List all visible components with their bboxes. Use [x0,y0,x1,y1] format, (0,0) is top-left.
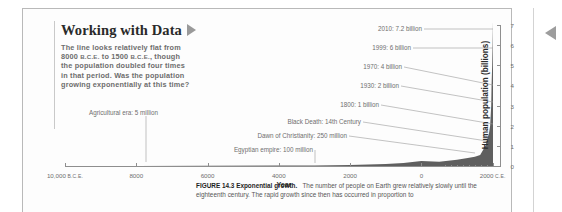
y-tick [497,126,501,127]
y-tick-label: 5 [511,62,514,69]
x-tick-label: 8000 [129,172,143,179]
x-tick-label: 0 [420,172,423,179]
figure-caption-label: FIGURE 14.3 Exponential growth. [196,182,297,189]
x-tick [208,163,209,167]
y-tick-label: 3 [511,102,514,109]
figure-root: Working with Data The line looks relativ… [0,0,562,212]
chart-annotation: Dawn of Christianity: 250 million [257,132,347,139]
x-tick-minor [487,165,488,168]
x-tick [65,163,66,167]
chart-annotation: 1999: 6 billion [372,44,411,51]
x-tick-minor [469,165,470,168]
x-tick-label: 2000 C.E. [480,172,506,179]
y-tick [497,25,501,26]
x-tick-label: 4000 [272,172,286,179]
x-tick [279,163,280,167]
x-tick-minor [445,165,446,168]
figure-caption: FIGURE 14.3 Exponential growth. The numb… [196,181,506,200]
x-tick-minor [463,165,464,168]
y-tick [497,65,501,66]
y-tick [497,106,501,107]
y-tick-label: 1 [511,142,514,149]
x-tick [350,163,351,167]
population-chart: Year Human population (billions) 10,000 … [63,23,505,167]
y-tick-label: 7 [511,22,514,29]
y-tick-label: 0 [511,163,514,170]
chart-annotation: 1970: 4 billion [363,63,402,70]
chart-annotation: Egyptian empire: 100 million [234,146,313,153]
x-tick [136,163,137,167]
y-tick-label: 2 [511,122,514,129]
page-edge-rule [533,8,534,212]
y-tick [497,45,501,46]
chart-annotation: 1930: 2 billion [360,82,399,89]
x-tick-label: 6000 [201,172,215,179]
y-tick [497,166,501,167]
chart-annotation: Black Death: 14th Century [287,118,361,125]
x-tick-minor [481,165,482,168]
left-pointing-triangle-icon [545,26,556,40]
x-tick-minor [451,165,452,168]
y-tick [497,146,501,147]
y-tick [497,85,501,86]
chart-annotation: Agricultural era: 5 million [89,109,158,116]
x-tick-minor [475,165,476,168]
y-tick-label: 4 [511,82,514,89]
callout-divider [54,21,55,129]
x-tick-label: 10,000 B.C.E. [47,172,83,179]
x-tick [421,163,422,167]
chart-annotation: 1800: 1 billion [340,101,379,108]
chart-annotation: 2010: 7.2 billion [378,25,422,32]
x-tick-minor [493,165,494,168]
y-axis-title: Human population (billions) [480,41,489,149]
x-tick-minor [457,165,458,168]
y-tick-label: 6 [511,42,514,49]
x-tick-label: 2000 [343,172,357,179]
